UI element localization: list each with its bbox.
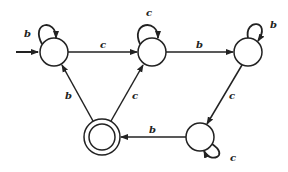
edge-q2-q3 [207,65,242,124]
label-q3-q4: b [149,124,156,135]
label-q2-q3: c [229,90,235,101]
label-q1-q2: b [196,39,203,50]
state-diagram: b c b c c b c b b c [0,0,288,172]
label-q4-q1: c [132,90,138,101]
state-q1 [138,38,166,66]
state-q2 [234,38,262,66]
label-loop-q0: b [24,28,31,39]
label-q4-q0: b [65,90,72,101]
label-loop-q1: c [146,7,152,18]
label-loop-q2: b [270,19,277,30]
state-q0 [40,38,68,66]
edge-q4-q1 [111,65,143,121]
label-loop-q3: c [230,152,236,163]
label-q0-q1: c [100,39,106,50]
state-q4-accepting [84,119,120,155]
state-q3 [186,123,214,151]
